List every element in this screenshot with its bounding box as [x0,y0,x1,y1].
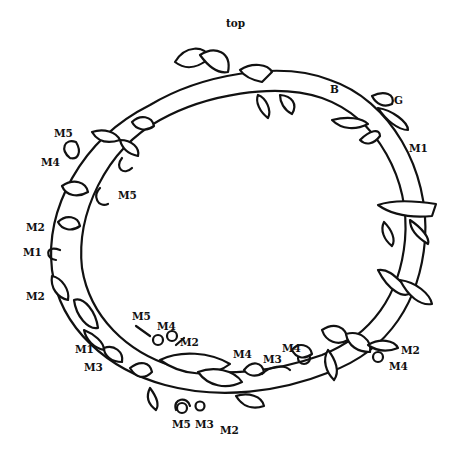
label-m4-c: M4 [233,349,252,360]
label-m5-d: M5 [172,419,191,430]
label-m3-b: M3 [263,354,282,365]
label-m4-d: M4 [282,343,301,354]
wreath-diagram [0,0,466,454]
label-top: top [226,18,245,29]
label-m1-a: M1 [23,247,42,258]
label-m5-b: M5 [118,190,137,201]
label-m2-e: M2 [220,425,239,436]
label-m4-b: M4 [157,321,176,332]
label-m5-c: M5 [132,311,151,322]
label-m4-e: M4 [389,361,408,372]
label-g: G [394,95,403,106]
label-m3-c: M3 [195,419,214,430]
label-m2-a: M2 [26,222,45,233]
label-m2-b: M2 [26,291,45,302]
label-b: B [330,84,339,95]
label-m5-a: M5 [54,128,73,139]
label-m4-a: M4 [41,157,60,168]
label-m2-c: M2 [180,337,199,348]
label-m2-d: M2 [401,345,420,356]
label-m1-right: M1 [409,143,428,154]
label-m3-a: M3 [84,362,103,373]
label-m1-b: M1 [75,344,94,355]
